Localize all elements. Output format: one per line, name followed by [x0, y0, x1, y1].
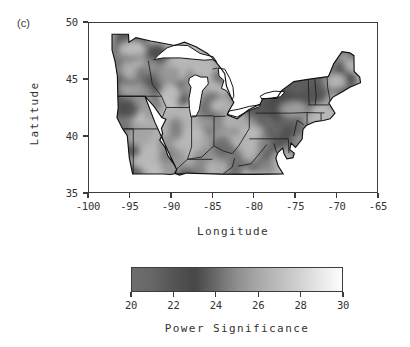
field-patch	[327, 131, 342, 151]
x-tick-label: -85	[203, 200, 221, 212]
field-patch	[287, 82, 316, 95]
x-tick	[87, 193, 88, 198]
x-tick	[170, 193, 171, 198]
x-tick-label: -95	[120, 200, 138, 212]
field-patch	[239, 82, 267, 94]
colorbar-tick	[173, 292, 174, 297]
field-patch	[271, 73, 287, 85]
x-tick	[336, 193, 337, 198]
field-patch	[213, 135, 233, 157]
field-patch	[258, 36, 281, 57]
x-tick-label: -90	[162, 200, 180, 212]
field-patch	[327, 157, 351, 168]
map-plot-frame	[88, 22, 378, 193]
field-patch	[113, 142, 134, 152]
y-tick	[83, 192, 88, 193]
colorbar-tick	[300, 292, 301, 297]
field-patch	[292, 134, 320, 145]
field-patch	[290, 164, 307, 174]
field-patch	[279, 101, 307, 117]
field-patch	[308, 142, 327, 164]
field-patch	[296, 149, 323, 170]
x-tick	[377, 193, 378, 198]
x-tick	[212, 193, 213, 198]
field-patch	[169, 118, 184, 141]
field-patch	[347, 159, 360, 175]
x-tick-label: -100	[76, 200, 101, 212]
field-patch	[327, 34, 352, 54]
field-patch	[211, 41, 240, 51]
field-patch	[160, 83, 180, 106]
field-patch	[95, 148, 125, 158]
y-tick	[83, 78, 88, 79]
colorbar-tick	[215, 292, 216, 297]
y-tick-label: 45	[66, 73, 78, 85]
field-patch	[327, 156, 343, 171]
field-patch	[118, 41, 145, 56]
colorbar-gradient	[132, 268, 342, 291]
panel-label: (c)	[17, 17, 30, 29]
choropleth-map	[89, 23, 377, 192]
colorbar-tick	[258, 292, 259, 297]
field-patch	[324, 125, 340, 136]
field-patch	[309, 35, 330, 54]
colorbar-tick-label: 20	[125, 299, 137, 311]
colorbar-tick-label: 28	[294, 299, 306, 311]
field-patch	[339, 125, 360, 141]
colorbar-tick	[130, 292, 131, 297]
field-patch	[265, 42, 290, 52]
y-tick-label: 40	[66, 130, 78, 142]
y-axis-label: Latitude	[28, 54, 41, 174]
x-tick-label: -75	[286, 200, 304, 212]
y-tick	[83, 135, 88, 136]
x-tick-label: -80	[245, 200, 263, 212]
field-patch	[201, 134, 213, 147]
field-patch	[100, 101, 112, 119]
field-patch	[183, 115, 211, 128]
field-patch	[284, 40, 311, 56]
x-tick	[294, 193, 295, 198]
colorbar-tick-label: 30	[337, 299, 349, 311]
colorbar-label: Power Significance	[131, 322, 343, 335]
field-patch	[341, 100, 360, 112]
field-patch	[277, 166, 290, 185]
field-patch	[327, 74, 346, 89]
y-tick	[83, 21, 88, 22]
field-patch	[97, 122, 117, 133]
x-axis-label: Longitude	[88, 225, 378, 238]
field-patch	[98, 141, 127, 157]
field-patch	[135, 66, 147, 79]
y-tick-label: 35	[66, 187, 78, 199]
colorbar-tick-label: 22	[167, 299, 179, 311]
field-patch	[341, 118, 369, 135]
colorbar-tick-label: 24	[210, 299, 222, 311]
x-tick	[253, 193, 254, 198]
field-patch	[339, 168, 357, 189]
field-patch	[258, 158, 272, 175]
x-tick	[129, 193, 130, 198]
map-value-field	[89, 23, 377, 192]
colorbar-tick-label: 26	[252, 299, 264, 311]
field-patch	[348, 143, 360, 164]
field-patch	[261, 50, 288, 62]
x-tick-label: -70	[327, 200, 345, 212]
colorbar-tick	[342, 292, 343, 297]
field-patch	[230, 43, 242, 59]
field-patch	[129, 126, 154, 147]
field-patch	[241, 143, 258, 163]
field-patch	[257, 134, 272, 151]
field-patch	[270, 68, 288, 85]
colorbar	[131, 267, 343, 292]
y-tick-label: 50	[66, 16, 78, 28]
field-patch	[183, 139, 204, 152]
field-patch	[291, 40, 321, 59]
field-patch	[336, 126, 360, 146]
field-patch	[213, 34, 232, 51]
field-patch	[242, 41, 259, 59]
field-patch	[216, 43, 229, 53]
x-tick-label: -65	[369, 200, 387, 212]
field-patch	[287, 57, 307, 79]
field-patch	[308, 167, 337, 180]
